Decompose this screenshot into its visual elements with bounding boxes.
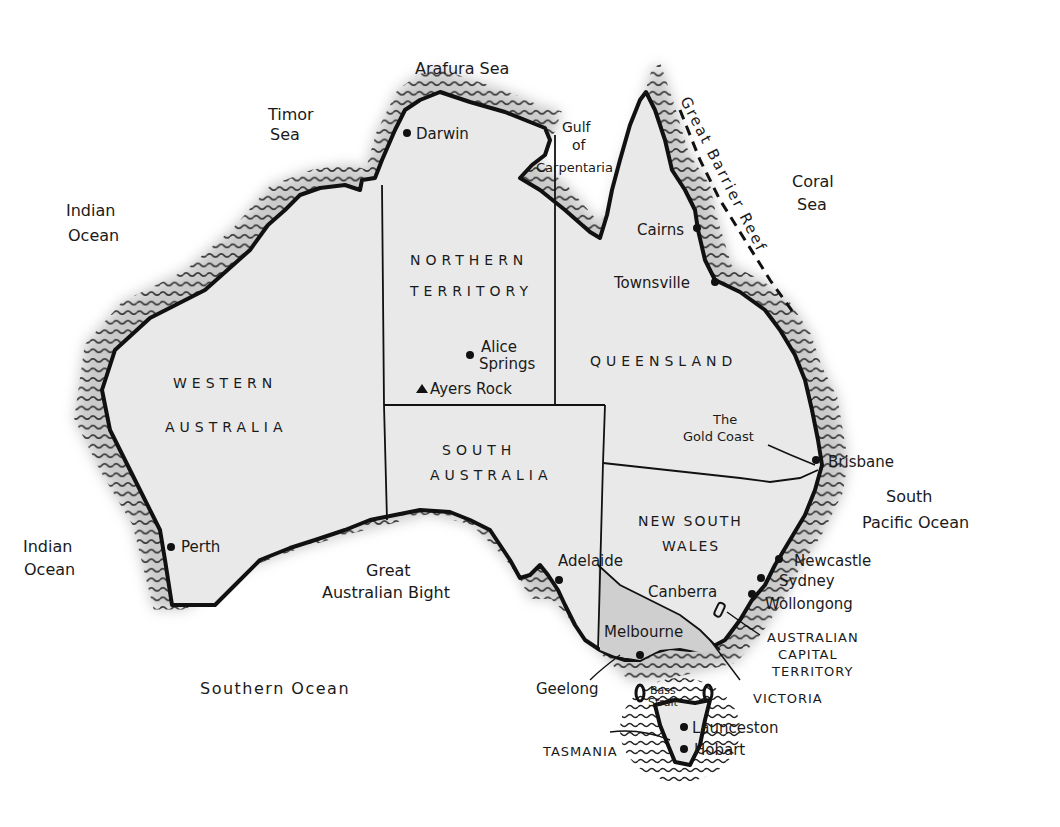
wa-label-2: AUSTRALIA xyxy=(165,419,288,435)
bass-strait-label-2: Strait xyxy=(648,696,679,709)
wollongong-label: Wollongong xyxy=(765,595,853,613)
nsw-label: NEW SOUTH xyxy=(638,513,743,529)
townsville-label: Townsville xyxy=(613,274,690,292)
gulf-label-3: Carpentaria xyxy=(536,160,613,175)
nsw-label-2: WALES xyxy=(662,538,720,554)
indian-ocean-north-label: Indian xyxy=(66,201,115,220)
great-bight-label: Great xyxy=(366,561,411,580)
cairns-label: Cairns xyxy=(637,221,684,239)
gulf-label-2: of xyxy=(572,137,587,153)
nt-label-2: TERRITORY xyxy=(409,283,533,299)
sydney-label: Sydney xyxy=(779,572,835,590)
sa-label: SOUTH xyxy=(442,442,516,458)
gold-coast-label: The xyxy=(712,412,737,427)
act-label-2: CAPITAL xyxy=(778,647,838,662)
brisbane-label: Brisbane xyxy=(828,453,894,471)
indian-ocean-south-label-2: Ocean xyxy=(24,560,75,579)
gulf-label: Gulf xyxy=(562,119,592,135)
act-label: AUSTRALIAN xyxy=(767,630,859,645)
qld-label: QUEENSLAND xyxy=(590,353,737,369)
tasmania-label: TASMANIA xyxy=(542,744,618,759)
indian-ocean-north-label-2: Ocean xyxy=(68,226,119,245)
southern-ocean-label: Southern Ocean xyxy=(200,679,350,698)
adelaide-label: Adelaide xyxy=(558,552,623,570)
sa-label-2: AUSTRALIA xyxy=(430,467,553,483)
coral-sea-label-2: Sea xyxy=(797,195,827,214)
indian-ocean-south-label: Indian xyxy=(23,537,72,556)
timor-sea-label: Timor xyxy=(267,105,314,124)
launceston-label: Launceston xyxy=(692,719,778,737)
south-pacific-label: South xyxy=(886,487,933,506)
nt-label: NORTHERN xyxy=(410,252,528,268)
perth-label: Perth xyxy=(181,538,220,556)
australia-map: Arafura Sea Timor Sea Indian Ocean India… xyxy=(0,0,1060,827)
coral-sea-label: Coral xyxy=(792,172,834,191)
ayers-rock-label: Ayers Rock xyxy=(430,380,512,398)
canberra-label: Canberra xyxy=(648,583,717,601)
south-pacific-label-2: Pacific Ocean xyxy=(862,513,969,532)
alice-springs-label: Alice xyxy=(481,338,517,356)
geelong-label: Geelong xyxy=(536,680,598,698)
melbourne-label: Melbourne xyxy=(604,623,683,641)
wa-label: WESTERN xyxy=(173,375,277,391)
timor-sea-label-2: Sea xyxy=(270,125,300,144)
gold-coast-label-2: Gold Coast xyxy=(683,429,754,444)
act-label-3: TERRITORY xyxy=(771,664,853,679)
darwin-label: Darwin xyxy=(416,125,469,143)
newcastle-label: Newcastle xyxy=(794,552,871,570)
arafura-sea-label: Arafura Sea xyxy=(415,59,509,78)
alice-springs-label-2: Springs xyxy=(479,355,535,373)
great-bight-label-2: Australian Bight xyxy=(322,583,450,602)
victoria-label: VICTORIA xyxy=(753,691,823,706)
hobart-label: Hobart xyxy=(694,741,745,759)
